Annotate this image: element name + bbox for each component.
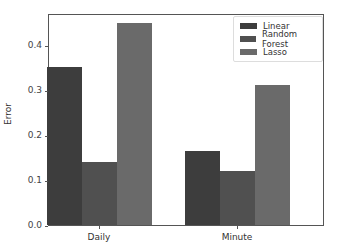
bar-lasso-minute — [255, 85, 290, 225]
y-tick-label: 0.2 — [28, 130, 42, 140]
legend-label: Lasso — [263, 47, 287, 57]
y-axis-label: Error — [3, 103, 13, 125]
bar-random-forest-daily — [82, 162, 117, 225]
y-tick-label: 0.4 — [28, 40, 42, 50]
bar-linear-minute — [185, 151, 220, 225]
y-tick-mark — [45, 226, 48, 227]
y-tick-mark — [45, 136, 48, 137]
bar-random-forest-minute — [220, 171, 255, 225]
legend-swatch — [240, 49, 257, 55]
bar-lasso-daily — [117, 23, 152, 225]
y-tick-label: 0.1 — [28, 175, 42, 185]
bar-linear-daily — [47, 67, 82, 225]
y-tick-mark — [45, 181, 48, 182]
y-tick-mark — [45, 46, 48, 47]
x-tick-mark — [99, 226, 100, 229]
x-tick-label: Minute — [222, 232, 253, 242]
y-tick-label: 0.3 — [28, 85, 42, 95]
x-tick-label: Daily — [88, 232, 111, 242]
legend-item-lasso: Lasso — [240, 46, 287, 58]
y-tick-mark — [45, 91, 48, 92]
legend: LinearRandom ForestLasso — [233, 16, 323, 62]
x-tick-mark — [237, 226, 238, 229]
legend-item-random-forest: Random Forest — [240, 33, 322, 45]
legend-swatch — [240, 23, 257, 29]
legend-swatch — [240, 36, 256, 42]
y-tick-label: 0.0 — [28, 220, 42, 230]
